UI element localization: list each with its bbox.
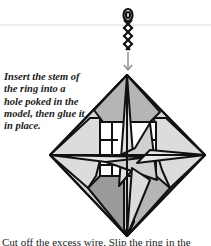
footer-partial-text: Cut off the excess wire. Slip the ring i… [2, 236, 211, 246]
origami-illustration [0, 0, 211, 246]
down-arrow-icon [124, 52, 132, 70]
wire-ring-icon [124, 9, 133, 50]
diamond-model [50, 75, 205, 236]
